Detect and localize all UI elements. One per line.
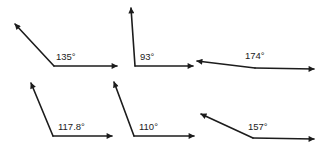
angle-label: 110° — [139, 121, 158, 132]
ray-arrow-icon — [31, 83, 53, 136]
ray-arrow-icon — [255, 68, 314, 69]
angle-117-8: 117.8° — [31, 83, 112, 136]
ray-arrow-icon — [131, 8, 135, 66]
ray-arrow-icon — [15, 24, 54, 66]
angle-label: 93° — [140, 51, 155, 62]
angle-label: 135° — [56, 51, 76, 62]
angle-93: 93° — [131, 8, 193, 66]
angle-label: 117.8° — [58, 121, 85, 132]
ray-arrow-icon — [114, 82, 134, 136]
angle-174: 174° — [197, 50, 314, 69]
angle-157: 157° — [201, 114, 314, 139]
angle-135: 135° — [15, 24, 117, 66]
angles-diagram: 135° 93° 174° 117.8° 110° 157° — [0, 0, 332, 150]
angle-label: 157° — [248, 121, 268, 132]
ray-arrow-icon — [197, 61, 255, 68]
angle-110: 110° — [114, 82, 194, 136]
ray-arrow-icon — [253, 138, 314, 139]
angle-label: 174° — [245, 50, 265, 61]
ray-arrow-icon — [201, 114, 253, 138]
